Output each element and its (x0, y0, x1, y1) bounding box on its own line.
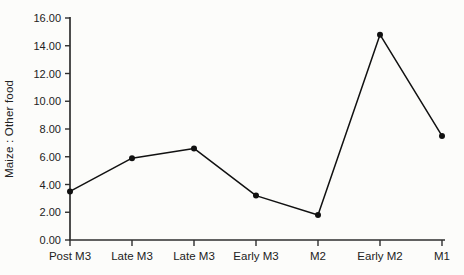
data-point (377, 32, 383, 38)
plot-area: 0.002.004.006.008.0010.0012.0014.0016.00… (33, 12, 450, 262)
y-tick-label: 14.00 (33, 40, 61, 52)
line-chart: 0.002.004.006.008.0010.0012.0014.0016.00… (0, 0, 464, 275)
x-tick-label: Early M2 (357, 250, 402, 262)
y-tick-label: 8.00 (40, 123, 61, 135)
y-tick-label: 6.00 (40, 151, 61, 163)
x-tick-label: Late M3 (173, 250, 215, 262)
data-point (67, 188, 73, 194)
y-tick-label: 0.00 (40, 234, 61, 246)
data-point (191, 145, 197, 151)
x-tick-label: Post M3 (49, 250, 91, 262)
chart-page: 0.002.004.006.008.0010.0012.0014.0016.00… (0, 0, 464, 275)
data-point (439, 133, 445, 139)
x-tick-label: Early M3 (233, 250, 278, 262)
y-tick-label: 16.00 (33, 12, 61, 24)
x-tick-label: Late M3 (111, 250, 153, 262)
data-point (315, 212, 321, 218)
x-tick-label: M2 (310, 250, 326, 262)
data-line (70, 35, 442, 215)
y-tick-label: 2.00 (40, 206, 61, 218)
x-tick-label: M1 (434, 250, 450, 262)
data-point (129, 155, 135, 161)
y-tick-label: 12.00 (33, 68, 61, 80)
y-tick-label: 4.00 (40, 179, 61, 191)
data-point (253, 193, 259, 199)
y-tick-label: 10.00 (33, 95, 61, 107)
y-axis-title: Maize : Other food (3, 80, 15, 178)
